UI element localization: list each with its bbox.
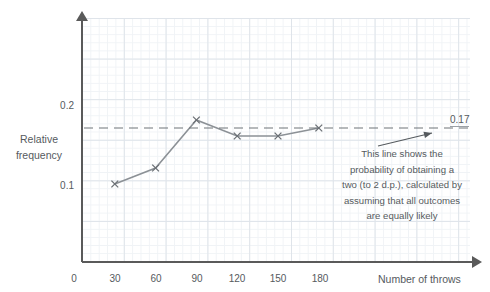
annotation-text-block: This line shows the probability of obtai…: [322, 146, 482, 224]
annotation-line-1: This line shows the: [322, 146, 482, 162]
data-point-marker: [193, 117, 200, 124]
annotation-line-3: two (to 2 d.p.), calculated by: [322, 177, 482, 193]
annotation-line-2: probability of obtaining a: [322, 162, 482, 178]
relative-frequency-line-chart: Relative frequency Number of throws 0.2 …: [0, 0, 490, 292]
reference-line-value-label: 0.17: [450, 114, 469, 127]
annotation-arrow-head-icon: [423, 132, 432, 138]
annotation-line-4: assuming that all outcomes: [322, 193, 482, 209]
annotation-line-5: are equally likely: [322, 208, 482, 224]
series-relative-frequency: [111, 117, 322, 188]
data-point-marker: [152, 165, 159, 172]
data-point-marker: [111, 181, 118, 188]
series-polyline: [115, 120, 319, 184]
annotation-arrow: [378, 132, 432, 146]
annotation-arrow-shaft: [378, 133, 432, 146]
